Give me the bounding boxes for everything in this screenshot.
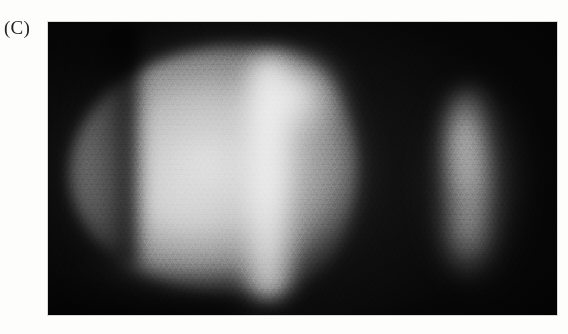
embryo-right-shading <box>48 22 138 268</box>
embryo-bottom-shading <box>48 268 236 315</box>
panel-label: (C) <box>4 17 30 38</box>
micrograph-image <box>48 22 557 315</box>
figure-panel: (C) <box>0 0 568 334</box>
